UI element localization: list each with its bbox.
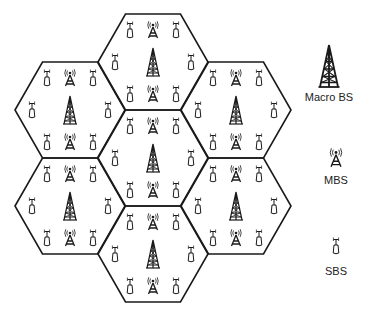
sbs-icon [29,198,35,214]
hex-cell-bottom [98,206,208,302]
sbs-icon [44,70,50,86]
sbs-icon [173,22,179,38]
sbs-icon [188,246,194,262]
mbs-icon [148,85,158,102]
hex-cell-center [98,110,208,206]
mbs-icon [65,165,75,182]
sbs-icon [173,278,179,294]
macro-bs-icon [146,144,160,172]
sbs-icon [127,214,133,230]
sbs-icon [256,70,262,86]
sbs-icon [105,102,111,118]
macro-bs-icon [229,192,243,220]
macro-bs-icon [63,192,77,220]
sbs-icon [44,134,50,150]
sbs-icon [105,198,111,214]
sbs-icon [210,70,216,86]
sbs-icon [127,118,133,134]
legend [319,45,342,254]
sbs-icon [271,198,277,214]
sbs-icon [173,214,179,230]
sbs-icon [188,54,194,70]
legend-label-macro-bs: Macro BS [294,91,364,103]
legend-mbs-icon [330,148,341,166]
sbs-icon [210,230,216,246]
sbs-icon [127,22,133,38]
hex-cell-bottom-left [15,158,125,254]
mbs-icon [148,117,158,134]
sbs-icon [173,118,179,134]
sbs-icon [173,86,179,102]
mbs-icon [65,229,75,246]
sbs-icon [44,166,50,182]
mbs-icon [148,277,158,294]
sbs-icon [29,102,35,118]
macro-bs-icon [146,240,160,268]
macro-bs-icon [146,48,160,76]
mbs-icon [148,181,158,198]
sbs-icon [90,230,96,246]
hex-cell-bottom-right [181,158,291,254]
sbs-icon [195,102,201,118]
hex-cells [15,14,291,302]
sbs-icon [127,278,133,294]
sbs-icon [90,134,96,150]
mbs-icon [65,133,75,150]
mbs-icon [231,229,241,246]
sbs-icon [112,54,118,70]
hex-cell-top-left [15,62,125,158]
sbs-icon [210,166,216,182]
sbs-icon [173,182,179,198]
hex-cell-top [98,14,208,110]
mbs-icon [231,165,241,182]
sbs-icon [210,134,216,150]
sbs-icon [90,166,96,182]
sbs-icon [256,166,262,182]
mbs-icon [65,69,75,86]
hex-cell-top-right [181,62,291,158]
legend-macro-bs-icon [319,45,340,87]
sbs-icon [127,86,133,102]
sbs-icon [90,70,96,86]
legend-label-sbs: SBS [301,265,369,277]
sbs-icon [256,230,262,246]
mbs-icon [148,21,158,38]
sbs-icon [256,134,262,150]
mbs-icon [231,133,241,150]
sbs-icon [271,102,277,118]
sbs-icon [112,150,118,166]
mbs-icon [148,213,158,230]
mbs-icon [231,69,241,86]
macro-bs-icon [229,96,243,124]
sbs-icon [44,230,50,246]
sbs-icon [188,150,194,166]
sbs-icon [127,182,133,198]
macro-bs-icon [63,96,77,124]
sbs-icon [112,246,118,262]
legend-sbs-icon [333,238,339,254]
sbs-icon [195,198,201,214]
legend-label-mbs: MBS [301,174,369,186]
